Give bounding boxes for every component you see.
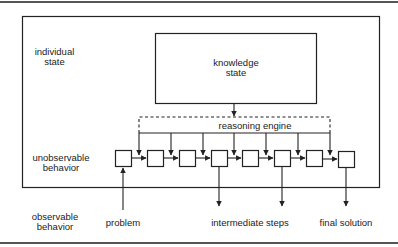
final-solution-label: final solution: [318, 218, 374, 228]
label-line: state: [206, 68, 266, 78]
state-box: [180, 151, 196, 167]
label-line: behavior: [30, 222, 80, 232]
state-chain: [116, 151, 355, 168]
diagram-canvas: [0, 0, 398, 247]
unobservable-behavior-label: unobservable behavior: [30, 153, 92, 173]
intermediate-steps-label: intermediate steps: [205, 218, 295, 228]
state-box: [116, 151, 132, 167]
label-line: state: [32, 57, 77, 67]
individual-state-label: individual state: [32, 47, 77, 67]
problem-label: problem: [103, 218, 143, 228]
state-box: [148, 151, 164, 167]
state-box: [307, 151, 323, 167]
label-line: behavior: [30, 163, 92, 173]
engine-down-arrows: [139, 133, 330, 155]
state-box: [212, 151, 228, 167]
knowledge-state-label: knowledge state: [206, 58, 266, 78]
reasoning-engine-label: reasoning engine: [200, 121, 310, 131]
state-box: [243, 151, 259, 167]
state-box-final: [339, 152, 355, 168]
observable-behavior-label: observable behavior: [30, 212, 80, 232]
state-box: [275, 151, 291, 167]
